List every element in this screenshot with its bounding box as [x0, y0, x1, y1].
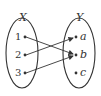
- element-c-label: c: [80, 66, 86, 79]
- element-2-dot: [24, 54, 27, 57]
- arrow-3-to-b: [26, 56, 73, 73]
- element-c-dot: [75, 72, 78, 75]
- set-y-label: Y: [76, 11, 85, 24]
- element-a-label: a: [80, 30, 87, 43]
- element-b-dot: [75, 54, 78, 57]
- set-x: X 1 2 3: [6, 11, 38, 88]
- set-x-ellipse: [6, 18, 38, 88]
- element-2-label: 2: [15, 49, 21, 60]
- arrow-2-to-a: [26, 38, 73, 55]
- arrow-1-to-b: [26, 37, 73, 54]
- mapping-arrows: [26, 37, 73, 73]
- element-1-dot: [24, 36, 27, 39]
- element-3-dot: [24, 72, 27, 75]
- mapping-diagram: X 1 2 3 Y a b c: [0, 0, 101, 96]
- element-b-label: b: [80, 48, 87, 61]
- set-x-label: X: [18, 11, 28, 24]
- set-y: Y a b c: [63, 11, 95, 88]
- element-a-dot: [75, 36, 78, 39]
- set-y-ellipse: [63, 18, 95, 88]
- element-1-label: 1: [15, 31, 21, 42]
- element-3-label: 3: [15, 67, 21, 78]
